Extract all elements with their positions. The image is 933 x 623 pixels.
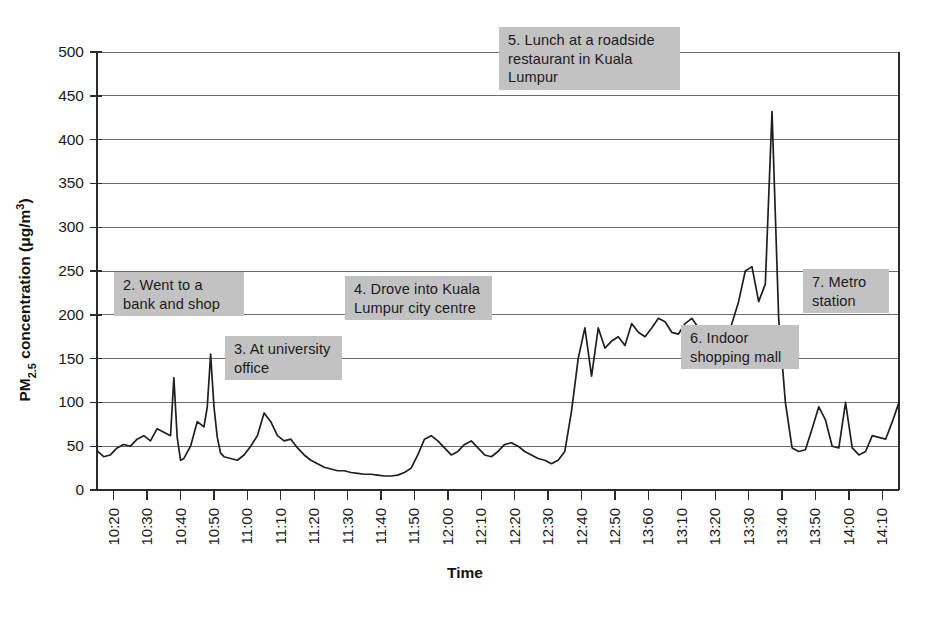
x-tick-label: 10:30 <box>138 508 155 546</box>
y-tick-label: 300 <box>58 218 84 235</box>
x-tick-label: 13:60 <box>639 508 656 546</box>
x-tick-label: 10:20 <box>105 508 122 546</box>
annot-7: 7. Metro station <box>803 269 889 313</box>
y-tick-label: 250 <box>58 262 84 279</box>
x-tick-label: 12:50 <box>606 508 623 546</box>
y-tick-label: 50 <box>67 437 85 454</box>
annot-2: 2. Went to a bank and shop <box>114 272 244 316</box>
x-tick-label: 10:50 <box>205 508 222 546</box>
x-tick-label: 13:20 <box>706 508 723 546</box>
x-tick-label: 13:40 <box>773 508 790 546</box>
x-axis-ticks-group: 10:2010:3010:4010:5011:0011:1011:2011:30… <box>105 490 891 546</box>
y-tick-label: 200 <box>58 306 84 323</box>
annot-6: 6. Indoor shopping mall <box>681 325 799 369</box>
x-tick-label: 11:20 <box>305 508 322 544</box>
y-axis-ticks-group: 050100150200250300350400450500 <box>58 43 102 498</box>
x-tick-label: 13:10 <box>673 508 690 546</box>
y-tick-label: 500 <box>58 43 84 60</box>
x-tick-label: 11:50 <box>405 508 422 544</box>
x-tick-label: 13:50 <box>806 508 823 546</box>
y-tick-label: 0 <box>75 481 84 498</box>
x-tick-label: 11:40 <box>372 508 389 544</box>
x-tick-label: 10:40 <box>172 508 189 546</box>
x-tick-label: 12:40 <box>573 508 590 546</box>
annot-4: 4. Drove into Kuala Lumpur city centre <box>345 276 492 320</box>
x-axis-title: Time <box>447 564 483 581</box>
y-tick-label: 350 <box>58 174 84 191</box>
x-tick-label: 12:00 <box>439 508 456 546</box>
y-tick-label: 400 <box>58 131 84 148</box>
pm25-timeseries-figure: 050100150200250300350400450500 10:2010:3… <box>0 0 933 623</box>
annot-3: 3. At university office <box>225 336 342 380</box>
x-tick-label: 11:30 <box>339 508 356 544</box>
x-tick-label: 14:10 <box>873 508 890 546</box>
x-tick-label: 14:00 <box>840 508 857 546</box>
x-tick-label: 12:30 <box>539 508 556 546</box>
x-tick-label: 13:30 <box>740 508 757 546</box>
y-tick-label: 100 <box>58 393 84 410</box>
y-tick-label: 450 <box>58 87 84 104</box>
annot-5: 5. Lunch at a roadside restaurant in Kua… <box>499 27 680 90</box>
y-tick-label: 150 <box>58 350 84 367</box>
x-tick-label: 12:20 <box>506 508 523 546</box>
y-axis-title: PM2.5 concentration (μg/m3) <box>14 198 38 401</box>
x-tick-label: 11:10 <box>272 508 289 544</box>
x-tick-label: 11:00 <box>238 508 255 544</box>
gridlines-group <box>97 52 899 446</box>
x-tick-label: 12:10 <box>472 508 489 546</box>
